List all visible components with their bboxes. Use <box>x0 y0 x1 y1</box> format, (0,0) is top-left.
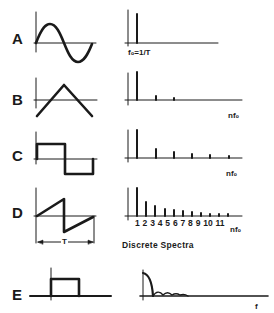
waveform-sawtooth <box>34 188 96 244</box>
fourier-diagram <box>0 0 274 313</box>
spectrum-c <box>125 130 242 162</box>
waveform-triangle <box>34 78 97 116</box>
spectrum-e-axis-label: f <box>255 302 258 311</box>
spectrum-d <box>125 188 242 220</box>
waveform-square <box>34 132 97 174</box>
waveform-single-pulse <box>30 268 111 300</box>
spectrum-continuous <box>140 270 268 300</box>
spectrum-b <box>125 72 242 105</box>
spectrum-c-axis-label: nf₀ <box>226 169 237 178</box>
period-label: T <box>61 237 68 246</box>
fundamental-frequency-label: f₀=1/T <box>128 48 151 57</box>
waveform-sine <box>34 12 96 62</box>
spectrum-a <box>125 10 218 46</box>
spectrum-d-axis-label: nf₀ <box>230 225 241 234</box>
discrete-spectra-caption: Discrete Spectra <box>122 240 194 250</box>
harmonic-number-ticks: 1 2 3 4 5 6 7 8 9 10 11 <box>135 218 225 228</box>
spectrum-b-axis-label: nf₀ <box>228 111 239 120</box>
